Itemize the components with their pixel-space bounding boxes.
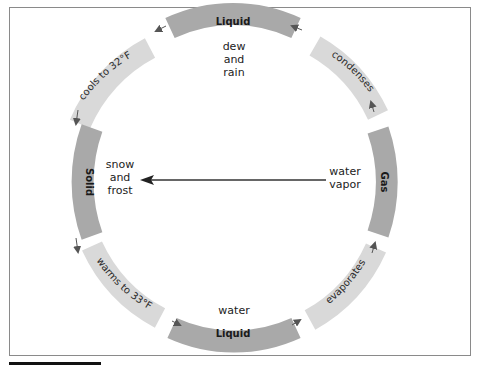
- caption-dew-and-rain: dew and rain: [223, 40, 246, 79]
- flow-arrow-icon: [156, 26, 166, 31]
- svg-text:dew: dew: [223, 40, 246, 53]
- state-label-liquid-bottom: Liquid: [216, 328, 251, 339]
- svg-text:water: water: [218, 304, 250, 317]
- caption-snow-and-frost: snow and frost: [106, 158, 134, 197]
- state-label-liquid-top: Liquid: [216, 16, 251, 27]
- svg-text:vapor: vapor: [329, 178, 361, 191]
- caption-water: water: [218, 304, 250, 317]
- state-label-solid: Solid: [84, 168, 95, 196]
- svg-text:snow: snow: [106, 158, 134, 171]
- phase-cycle-diagram: Liquid Liquid Solid Gas cools to 32°F co…: [0, 0, 479, 366]
- flow-arrow-icon: [76, 238, 78, 252]
- state-label-gas: Gas: [379, 172, 390, 193]
- svg-text:and: and: [224, 53, 245, 66]
- svg-text:frost: frost: [108, 184, 134, 197]
- svg-text:and: and: [110, 171, 131, 184]
- caption-water-vapor: water vapor: [329, 165, 361, 191]
- svg-text:water: water: [329, 165, 361, 178]
- svg-text:rain: rain: [223, 66, 244, 79]
